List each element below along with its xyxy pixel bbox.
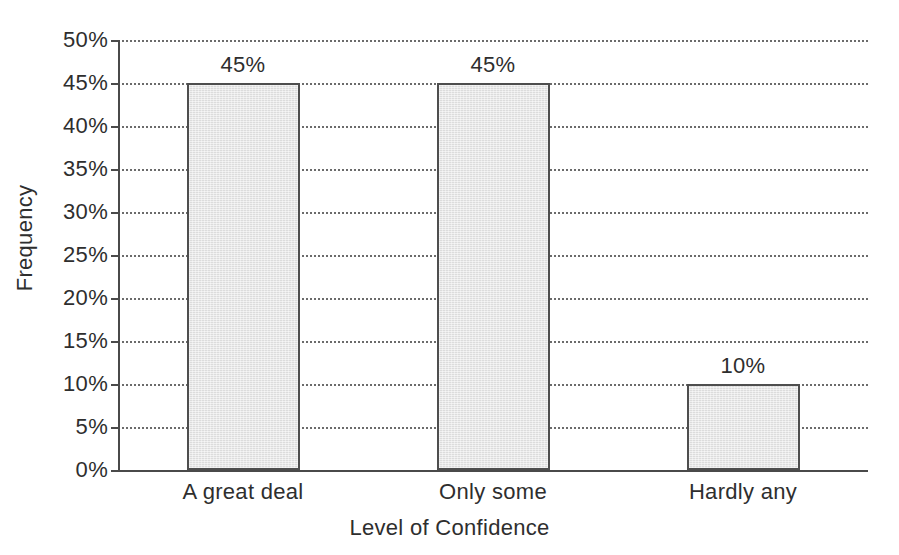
- y-axis-tick-mark: [111, 40, 118, 42]
- y-axis-tick-mark: [111, 384, 118, 386]
- y-axis-tick-label: 5%: [8, 416, 108, 438]
- x-axis-tick-label: Only some: [439, 481, 547, 503]
- x-axis-tick-label: Hardly any: [689, 481, 797, 503]
- y-axis-title: Frequency: [12, 118, 38, 358]
- y-axis-tick-mark: [111, 83, 118, 85]
- y-axis-tick-label: 50%: [8, 29, 108, 51]
- bar: [437, 83, 550, 470]
- bar-value-label: 45%: [221, 54, 266, 76]
- y-axis-tick-mark: [111, 341, 118, 343]
- bar: [687, 384, 800, 470]
- x-axis-tick-label: A great deal: [182, 481, 303, 503]
- bar-chart: 0%5%10%15%20%25%30%35%40%45%50% 45%45%10…: [0, 0, 899, 555]
- y-axis-tick-mark: [111, 427, 118, 429]
- x-axis-line: [118, 470, 868, 472]
- y-axis-tick-label: 10%: [8, 373, 108, 395]
- y-axis-tick-mark: [111, 126, 118, 128]
- plot-area: [118, 40, 868, 470]
- y-axis-tick-mark: [111, 298, 118, 300]
- y-axis-tick-mark: [111, 255, 118, 257]
- y-axis-tick-mark: [111, 169, 118, 171]
- bar: [187, 83, 300, 470]
- x-axis-title: Level of Confidence: [0, 515, 899, 541]
- gridline: [118, 40, 868, 42]
- y-axis-tick-label: 45%: [8, 72, 108, 94]
- y-axis-tick-label: 0%: [8, 459, 108, 481]
- bar-value-label: 10%: [721, 355, 766, 377]
- y-axis-line: [118, 40, 120, 471]
- y-axis-tick-mark: [111, 470, 118, 472]
- bar-value-label: 45%: [471, 54, 516, 76]
- y-axis-tick-mark: [111, 212, 118, 214]
